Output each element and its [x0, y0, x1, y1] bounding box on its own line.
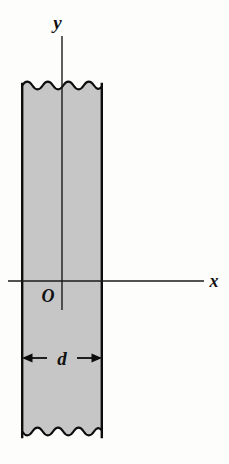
x-axis-label: x	[209, 271, 219, 291]
figure-canvas: y x O d	[0, 0, 229, 464]
y-axis-label: y	[51, 12, 62, 33]
cross-section-diagram: y x O d	[0, 0, 229, 464]
width-dimension-label: d	[57, 348, 67, 369]
origin-label: O	[42, 286, 55, 306]
